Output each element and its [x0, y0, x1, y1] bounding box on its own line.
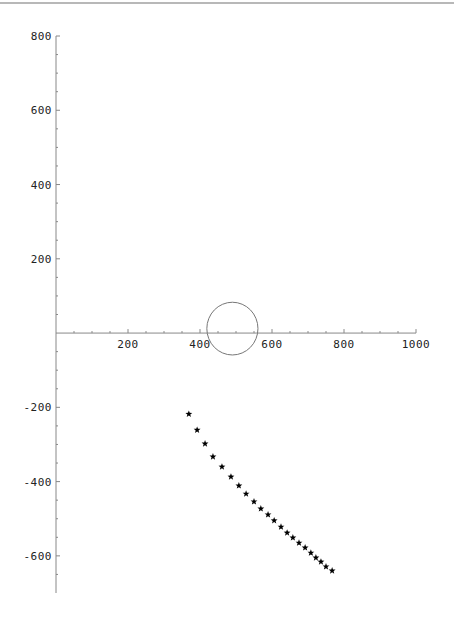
tick-labels: 2004006008001000-600-400-200200400600800	[24, 30, 431, 563]
star-icon	[284, 529, 291, 536]
star-icon	[307, 549, 314, 556]
axes	[56, 36, 416, 593]
star-icon	[202, 440, 209, 447]
x-tick-label: 1000	[402, 338, 431, 351]
star-icon	[257, 505, 264, 512]
scatter-plot: 2004006008001000-600-400-200200400600800	[0, 0, 454, 626]
y-tick-label: 800	[31, 30, 52, 43]
circle-shape	[207, 302, 258, 355]
x-tick-label: 800	[333, 338, 354, 351]
x-tick-label: 400	[189, 338, 210, 351]
y-tick-label: 400	[31, 179, 52, 192]
star-icon	[194, 426, 201, 433]
star-icon	[296, 539, 303, 546]
circle-outline	[207, 302, 258, 355]
x-tick-label: 600	[261, 338, 282, 351]
star-icon	[318, 558, 325, 565]
star-icon	[228, 473, 235, 480]
star-icon	[271, 517, 278, 524]
star-icon	[289, 534, 296, 541]
star-icon	[323, 563, 330, 570]
y-tick-label: -400	[24, 476, 53, 489]
star-icon	[265, 511, 272, 518]
y-tick-label: -600	[24, 550, 53, 563]
star-icon	[251, 498, 258, 505]
star-icon	[329, 567, 336, 574]
y-tick-label: 600	[31, 104, 52, 117]
star-markers	[185, 410, 335, 573]
star-icon	[235, 482, 242, 489]
star-icon	[219, 463, 226, 470]
star-icon	[185, 410, 192, 417]
x-tick-label: 200	[117, 338, 138, 351]
star-icon	[313, 554, 320, 561]
y-tick-label: -200	[24, 401, 53, 414]
star-icon	[278, 523, 285, 530]
y-tick-label: 200	[31, 253, 52, 266]
star-icon	[243, 490, 250, 497]
star-icon	[210, 453, 217, 460]
star-icon	[302, 544, 309, 551]
